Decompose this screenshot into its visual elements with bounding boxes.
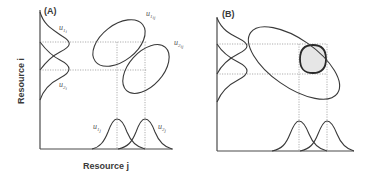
label-u2i: u2i xyxy=(59,80,68,91)
label-u1j: u1j xyxy=(93,122,102,133)
panel-a-curve-u1j xyxy=(92,119,145,149)
panel-a-ellipse-u1ij xyxy=(84,10,153,75)
panel-a-ellipse-u2ij xyxy=(114,36,178,102)
panel-b-label: (B) xyxy=(222,9,235,19)
panel-b-curve-upper xyxy=(217,18,247,74)
panel-b: (B) xyxy=(217,9,354,151)
panel-b-overlap-region xyxy=(300,45,326,73)
panel-a: (A) u1i u2i u1ij u2ij u1j u2j Resource j… xyxy=(16,6,184,171)
label-u1i: u1i xyxy=(59,23,68,34)
label-u2ij: u2ij xyxy=(174,38,184,49)
panel-a-curve-u1i xyxy=(40,12,69,70)
panel-b-curve-lower xyxy=(217,44,247,102)
panel-b-curve-left xyxy=(272,121,327,151)
panel-a-label: (A) xyxy=(44,6,57,16)
niche-overlap-diagram: (A) u1i u2i u1ij u2ij u1j u2j Resource j… xyxy=(0,0,373,175)
label-u2j: u2j xyxy=(158,122,167,133)
y-axis-title: Resource i xyxy=(16,58,26,104)
panel-b-ellipse xyxy=(237,13,351,113)
x-axis-title: Resource j xyxy=(83,161,129,171)
panel-a-curve-u2i xyxy=(40,42,69,100)
label-u1ij: u1ij xyxy=(146,9,156,20)
